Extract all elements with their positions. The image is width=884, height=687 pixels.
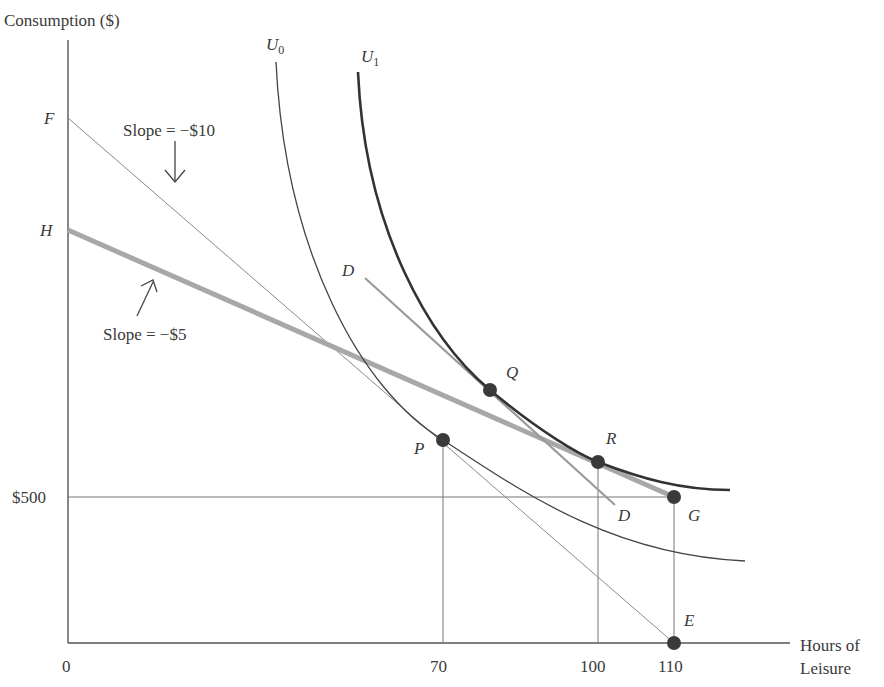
x-tick-110: 110: [658, 658, 683, 675]
x-axis-label-line1: Hours of: [800, 637, 860, 654]
x-tick-70: 70: [430, 658, 447, 675]
point-q-dot: [483, 383, 497, 397]
point-e-label: E: [684, 612, 694, 629]
point-r-dot: [591, 455, 605, 469]
y-axis-label: Consumption ($): [4, 12, 120, 29]
u0-label: U0: [266, 36, 284, 53]
point-p-label: P: [414, 440, 424, 457]
y-tick-f: F: [44, 110, 54, 127]
arrow-down-icon: [165, 141, 185, 182]
indifference-curve-u1: [358, 72, 730, 490]
d-start-label: D: [342, 262, 354, 279]
budget-line-fe: [68, 118, 674, 643]
d-end-label: D: [618, 507, 630, 524]
slope-10-label: Slope = −$10: [123, 122, 215, 139]
point-g-dot: [667, 490, 681, 504]
x-tick-100: 100: [580, 658, 606, 675]
point-r-label: R: [606, 430, 616, 447]
budget-line-hg: [68, 230, 674, 497]
point-e-dot: [667, 636, 681, 650]
origin-label: 0: [62, 658, 71, 675]
point-p-dot: [436, 433, 450, 447]
slope-5-label: Slope = −$5: [103, 326, 186, 343]
point-q-label: Q: [506, 364, 518, 381]
arrow-up-icon: [137, 280, 157, 316]
u1-label: U1: [361, 48, 379, 65]
y-tick-h: H: [40, 222, 52, 239]
y-tick-500: $500: [12, 489, 46, 506]
point-g-label: G: [688, 507, 700, 524]
x-axis-label-line2: Leisure: [800, 660, 851, 677]
